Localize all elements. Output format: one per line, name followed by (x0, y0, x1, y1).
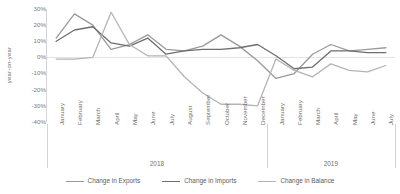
x-axis-tick-label: May (132, 113, 138, 125)
chart-legend: Change in ExportsChange in ImportsChange… (0, 178, 400, 184)
x-axis-tick-label: September (205, 95, 211, 125)
x-axis-tick-label: June (150, 112, 156, 125)
legend-color-swatch (66, 181, 84, 182)
x-axis-tick-label: February (297, 100, 303, 125)
x-axis-tick-label: January (279, 103, 285, 125)
x-axis-tick-label: April (114, 113, 120, 125)
y-axis-tick-label: -10% (12, 70, 46, 76)
y-axis-tick-label: 10% (12, 38, 46, 44)
y-axis-tick-label: 20% (12, 22, 46, 28)
legend-color-swatch (258, 181, 276, 182)
x-axis-tick-label: March (95, 108, 101, 125)
x-axis-tick-label: January (59, 103, 65, 125)
x-axis-tick-label: July (388, 114, 394, 125)
series-line-change-in-imports (56, 27, 386, 69)
x-axis-tick-label: August (187, 106, 193, 125)
x-axis-tick-label: February (77, 100, 83, 125)
series-line-change-in-balance (56, 12, 386, 106)
x-axis-group-separator (395, 124, 396, 168)
legend-item[interactable]: Change in Imports (162, 178, 236, 184)
legend-item[interactable]: Change in Balance (258, 178, 334, 184)
y-axis-tick-label: -20% (12, 87, 46, 93)
legend-color-swatch (162, 181, 180, 182)
legend-label: Change in Imports (184, 178, 236, 184)
x-axis-tick-label: June (370, 112, 376, 125)
series-lines (47, 9, 395, 122)
legend-item[interactable]: Change in Exports (66, 178, 141, 184)
x-axis-group-label: 2019 (267, 160, 395, 167)
x-axis-tick-label: October (224, 103, 230, 125)
y-axis-tick-label: 0% (12, 54, 46, 60)
y-axis-tick-label: -40% (12, 119, 46, 125)
x-axis-tick-label: April (333, 113, 339, 125)
x-axis-group-label: 2018 (47, 160, 267, 167)
x-axis-tick-label: March (315, 108, 321, 125)
x-axis-tick-label: November (242, 96, 248, 125)
x-axis-tick-label: July (169, 114, 175, 125)
legend-label: Change in Balance (280, 178, 334, 184)
line-chart: year-on-year 30%20%10%0%-10%-20%-30%-40%… (0, 0, 400, 194)
y-axis-tick-label: 30% (12, 6, 46, 12)
series-line-change-in-exports (56, 14, 386, 79)
x-axis-tick-label: December (260, 96, 266, 125)
legend-label: Change in Exports (88, 178, 141, 184)
x-axis-tick-label: May (352, 113, 358, 125)
y-axis-tick-label: -30% (12, 103, 46, 109)
plot-area (47, 9, 395, 122)
